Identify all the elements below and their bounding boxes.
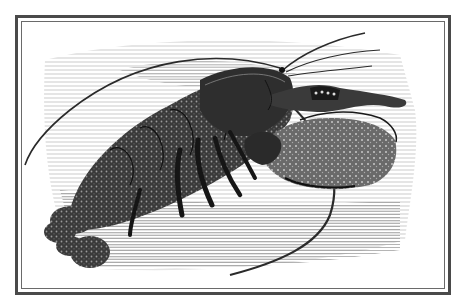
lobster-illustration [0, 0, 462, 306]
